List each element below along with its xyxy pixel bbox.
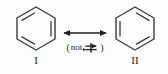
note-open-paren: ( bbox=[66, 42, 69, 53]
not-equilibrium-note: (not ) bbox=[56, 40, 114, 55]
benzene-structure-i bbox=[14, 4, 58, 52]
resonance-arrow bbox=[57, 26, 113, 40]
resonance-structure-figure: (not ) I II bbox=[0, 0, 168, 74]
benzene-ring-i-svg bbox=[14, 4, 58, 52]
hexagon-outline-ii bbox=[116, 7, 154, 50]
hexagon-outline-i bbox=[17, 7, 55, 50]
note-close-paren: ) bbox=[100, 42, 103, 53]
structure-label-i: I bbox=[14, 54, 58, 67]
benzene-ring-ii-svg bbox=[113, 4, 157, 52]
note-word-not: not bbox=[71, 42, 83, 53]
structure-label-ii: II bbox=[113, 54, 157, 67]
benzene-structure-ii bbox=[113, 4, 157, 52]
crossed-equilibrium-arrow-icon bbox=[83, 42, 99, 54]
